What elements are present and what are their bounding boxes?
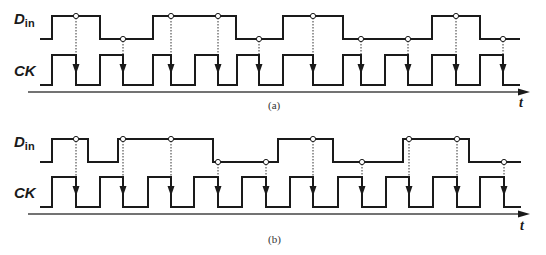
sample-point-circle-icon xyxy=(501,159,506,164)
falling-edge-arrow-icon xyxy=(359,186,366,196)
sampling-guides-a xyxy=(76,18,503,55)
sample-point-circle-icon xyxy=(73,136,78,141)
din-label-main: D xyxy=(14,10,25,27)
sample-point-circle-icon xyxy=(256,36,261,41)
timing-diagram xyxy=(0,0,546,255)
sample-point-circle-icon xyxy=(120,36,125,41)
sample-point-circle-icon xyxy=(405,36,410,41)
caption-a: (a) xyxy=(268,100,280,111)
caption-b: (b) xyxy=(268,234,281,245)
ck-waveform-b xyxy=(40,177,521,207)
sample-point-circle-icon xyxy=(359,159,364,164)
din-waveform-a xyxy=(40,16,520,39)
falling-edge-arrow-icon xyxy=(215,64,222,74)
sample-point-circle-icon xyxy=(310,13,315,18)
falling-edge-arrow-icon xyxy=(310,186,317,196)
sample-point-circle-icon xyxy=(168,136,173,141)
panel-b-timing xyxy=(28,136,530,217)
ck-label-a: CK xyxy=(14,63,36,78)
clock-edge-arrows-a xyxy=(73,64,507,74)
sampling-guides-b xyxy=(76,141,504,177)
din-label-subscript: in xyxy=(25,17,35,29)
falling-edge-arrow-icon xyxy=(215,186,222,196)
din-label-subscript: in xyxy=(25,140,35,152)
sample-point-circle-icon xyxy=(454,136,459,141)
falling-edge-arrow-icon xyxy=(73,64,80,74)
falling-edge-arrow-icon xyxy=(405,64,412,74)
din-label-a: Din xyxy=(14,11,35,29)
din-waveform-b xyxy=(40,139,521,162)
falling-edge-arrow-icon xyxy=(256,64,263,74)
sample-point-circle-icon xyxy=(120,136,125,141)
panel-a-timing xyxy=(28,13,530,95)
falling-edge-arrow-icon xyxy=(501,186,508,196)
ck-waveform-a xyxy=(40,55,520,85)
sample-point-circle-icon xyxy=(453,13,458,18)
time-axis-label-a: t xyxy=(519,96,523,110)
sample-point-circle-icon xyxy=(263,159,268,164)
din-label-b: Din xyxy=(14,134,35,152)
time-axis-label-b: t xyxy=(520,219,524,233)
falling-edge-arrow-icon xyxy=(358,64,365,74)
sample-point-circle-icon xyxy=(215,13,220,18)
sample-point-circle-icon xyxy=(215,159,220,164)
sample-point-circle-icon xyxy=(358,36,363,41)
falling-edge-arrow-icon xyxy=(168,186,175,196)
sample-point-markers-b xyxy=(73,136,506,164)
sample-point-circle-icon xyxy=(406,136,411,141)
sample-point-circle-icon xyxy=(500,36,505,41)
sample-point-circle-icon xyxy=(168,13,173,18)
falling-edge-arrow-icon xyxy=(120,186,127,196)
sample-point-markers-a xyxy=(73,13,505,41)
ck-label-b: CK xyxy=(14,185,36,200)
falling-edge-arrow-icon xyxy=(406,186,413,196)
sample-point-circle-icon xyxy=(310,136,315,141)
sample-point-circle-icon xyxy=(73,13,78,18)
falling-edge-arrow-icon xyxy=(168,64,175,74)
falling-edge-arrow-icon xyxy=(500,64,507,74)
falling-edge-arrow-icon xyxy=(120,64,127,74)
falling-edge-arrow-icon xyxy=(454,186,461,196)
falling-edge-arrow-icon xyxy=(310,64,317,74)
din-label-main: D xyxy=(14,133,25,150)
falling-edge-arrow-icon xyxy=(73,186,80,196)
falling-edge-arrow-icon xyxy=(263,186,270,196)
time-axis-arrow-icon xyxy=(518,211,530,218)
falling-edge-arrow-icon xyxy=(453,64,460,74)
